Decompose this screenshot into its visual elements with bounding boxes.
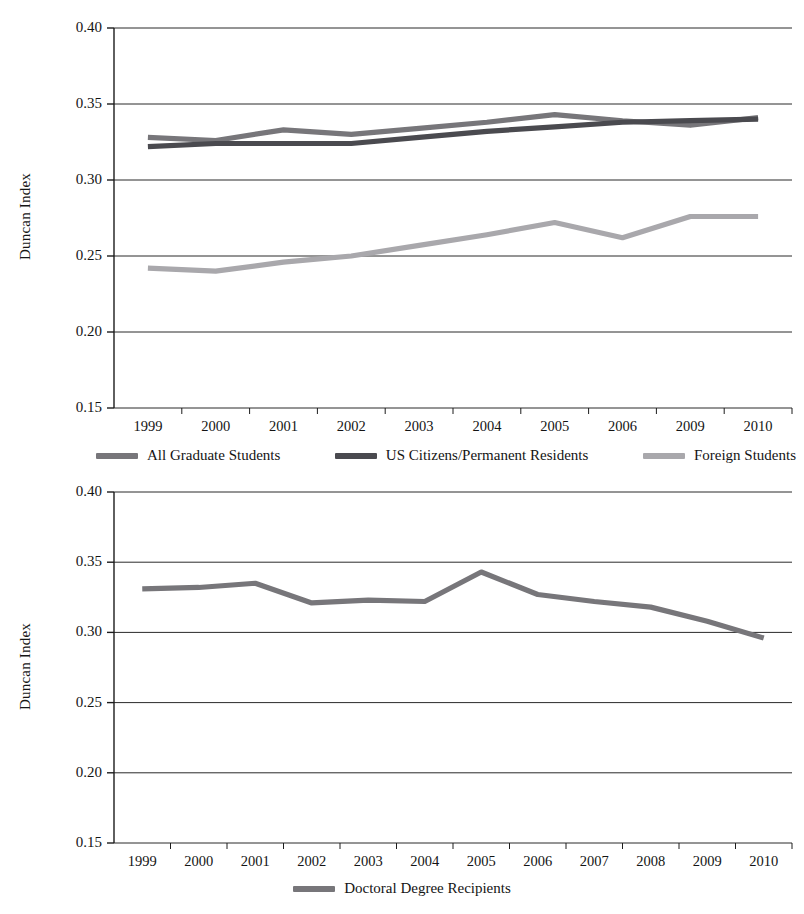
chart-top-legend: All Graduate StudentsUS Citizens/Permane… [96, 448, 796, 463]
legend-swatch-all-graduate-students [96, 453, 138, 459]
series-line-doctoral-degree-recipients [142, 572, 764, 638]
ytick-label-0.35: 0.35 [52, 95, 102, 112]
xtick-label-2010: 2010 [723, 418, 793, 435]
chart-top: Duncan Index 0.400.350.300.250.200.15 19… [0, 0, 804, 478]
chart-bottom-legend: Doctoral Degree Recipients [0, 881, 804, 896]
xtick-label-2004: 2004 [452, 418, 522, 435]
figure-page: Duncan Index 0.400.350.300.250.200.15 19… [0, 0, 804, 914]
xtick-label-2002: 2002 [316, 418, 386, 435]
ytick-label-0.15: 0.15 [52, 834, 102, 851]
xtick-label-2003: 2003 [384, 418, 454, 435]
chart-top-svg [0, 0, 804, 478]
ytick-label-0.25: 0.25 [52, 694, 102, 711]
legend-label: All Graduate Students [147, 448, 280, 463]
legend-swatch-doctoral-degree-recipients [293, 886, 335, 892]
legend-swatch-us-citizens [335, 453, 377, 459]
chart-bottom-svg [0, 478, 804, 914]
chart-bottom-plot-area [0, 478, 804, 914]
legend-label: US Citizens/Permanent Residents [386, 448, 588, 463]
ytick-label-0.20: 0.20 [52, 323, 102, 340]
ytick-label-0.30: 0.30 [52, 623, 102, 640]
xtick-label-2005: 2005 [520, 418, 590, 435]
ytick-label-0.40: 0.40 [52, 19, 102, 36]
xtick-label-2010: 2010 [729, 853, 799, 870]
ytick-label-0.40: 0.40 [52, 483, 102, 500]
legend-label: Doctoral Degree Recipients [344, 881, 511, 896]
legend-entry-all-graduate-students[interactable]: All Graduate Students [96, 448, 280, 463]
y-axis-title: Duncan Index [17, 607, 34, 727]
ytick-label-0.20: 0.20 [52, 764, 102, 781]
xtick-label-2006: 2006 [588, 418, 658, 435]
y-axis-title: Duncan Index [17, 157, 34, 277]
xtick-label-2009: 2009 [655, 418, 725, 435]
ytick-label-0.30: 0.30 [52, 171, 102, 188]
xtick-label-2000: 2000 [181, 418, 251, 435]
xtick-label-2001: 2001 [249, 418, 319, 435]
legend-entry-doctoral-degree-recipients[interactable]: Doctoral Degree Recipients [293, 881, 511, 896]
ytick-label-0.25: 0.25 [52, 247, 102, 264]
series-line-foreign-students [148, 216, 758, 271]
ytick-label-0.35: 0.35 [52, 553, 102, 570]
legend-label: Foreign Students [694, 448, 796, 463]
ytick-label-0.15: 0.15 [52, 399, 102, 416]
legend-entry-us-citizens-permanent-residents[interactable]: US Citizens/Permanent Residents [335, 448, 588, 463]
legend-swatch-foreign-students [643, 453, 685, 459]
chart-bottom: Duncan Index 0.400.350.300.250.200.15 19… [0, 478, 804, 914]
xtick-label-1999: 1999 [113, 418, 183, 435]
legend-entry-foreign-students[interactable]: Foreign Students [643, 448, 796, 463]
chart-top-plot-area [0, 0, 804, 478]
